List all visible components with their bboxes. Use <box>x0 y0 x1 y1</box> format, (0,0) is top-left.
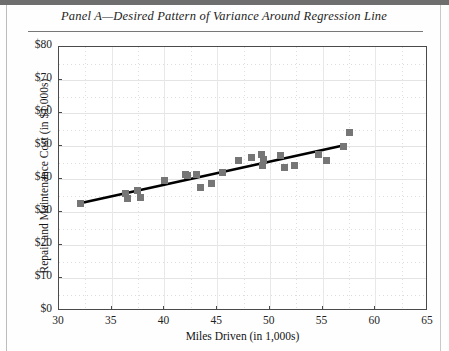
y-axis-tick-mark <box>58 211 62 212</box>
minor-gridline-horizontal <box>59 130 426 131</box>
data-point <box>193 171 200 178</box>
gridline-horizontal <box>59 245 426 246</box>
x-axis-tick-mark <box>216 306 217 310</box>
gridline-horizontal <box>59 179 426 180</box>
data-point <box>340 143 347 150</box>
minor-gridline-vertical <box>244 47 245 309</box>
gridline-vertical <box>217 47 218 309</box>
gridline-horizontal <box>59 80 426 81</box>
gridline-horizontal <box>59 113 426 114</box>
gridline-horizontal <box>59 212 426 213</box>
page-top-band <box>0 0 449 5</box>
x-axis-tick-mark <box>322 306 323 310</box>
minor-gridline-horizontal <box>59 196 426 197</box>
data-point <box>259 162 266 169</box>
x-axis-tick-mark <box>269 306 270 310</box>
title-divider <box>28 31 423 32</box>
x-axis-tick-label: 40 <box>143 314 183 326</box>
data-point <box>124 195 131 202</box>
panel-title: Panel A—Desired Pattern of Variance Arou… <box>10 9 438 24</box>
y-axis-tick-mark <box>58 244 62 245</box>
gridline-vertical <box>112 47 113 309</box>
x-axis-tick-label: 65 <box>407 314 447 326</box>
y-axis-tick-mark <box>58 145 62 146</box>
data-point <box>219 169 226 176</box>
data-point <box>208 180 215 187</box>
x-axis-tick-label: 35 <box>91 314 131 326</box>
gridline-vertical <box>270 47 271 309</box>
minor-gridline-vertical <box>296 47 297 309</box>
gridline-horizontal <box>59 146 426 147</box>
data-point <box>248 154 255 161</box>
data-point <box>184 172 191 179</box>
data-point <box>197 184 204 191</box>
x-axis-tick-label: 50 <box>249 314 289 326</box>
x-axis-tick-label: 45 <box>196 314 236 326</box>
x-axis-tick-label: 60 <box>354 314 394 326</box>
data-point <box>260 156 267 163</box>
x-axis-tick-mark <box>163 306 164 310</box>
x-axis-tick-label: 30 <box>38 314 78 326</box>
data-point <box>77 200 84 207</box>
gridline-vertical <box>375 47 376 309</box>
minor-gridline-horizontal <box>59 229 426 230</box>
minor-gridline-horizontal <box>59 64 426 65</box>
figure-panel-a: Panel A—Desired Pattern of Variance Arou… <box>0 0 449 351</box>
minor-gridline-horizontal <box>59 97 426 98</box>
x-axis-tick-mark <box>374 306 375 310</box>
data-point <box>235 157 242 164</box>
page-edge-right <box>440 5 441 351</box>
data-point <box>323 157 330 164</box>
data-point <box>346 129 353 136</box>
data-point <box>291 162 298 169</box>
plot-area <box>58 46 427 310</box>
minor-gridline-vertical <box>349 47 350 309</box>
data-point <box>277 152 284 159</box>
minor-gridline-vertical <box>402 47 403 309</box>
regression-line <box>59 47 426 309</box>
y-axis-tick-mark <box>58 178 62 179</box>
y-axis-tick-mark <box>58 112 62 113</box>
data-point <box>137 194 144 201</box>
x-axis-tick-mark <box>111 306 112 310</box>
minor-gridline-horizontal <box>59 262 426 263</box>
y-axis-title: Repair and Maintenance Cost (in $1,000s) <box>38 44 50 308</box>
minor-gridline-horizontal <box>59 163 426 164</box>
x-axis-title: Miles Driven (in 1,000s) <box>58 330 427 342</box>
minor-gridline-horizontal <box>59 295 426 296</box>
y-axis-tick-mark <box>58 277 62 278</box>
minor-gridline-vertical <box>138 47 139 309</box>
x-axis-tick-label: 55 <box>302 314 342 326</box>
data-point <box>315 151 322 158</box>
gridline-vertical <box>323 47 324 309</box>
gridline-horizontal <box>59 278 426 279</box>
minor-gridline-vertical <box>85 47 86 309</box>
data-point <box>161 177 168 184</box>
y-axis-tick-mark <box>58 79 62 80</box>
data-point <box>281 164 288 171</box>
